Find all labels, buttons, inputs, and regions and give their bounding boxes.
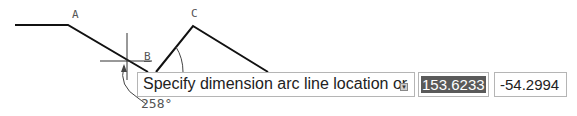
- drawing-canvas[interactable]: [0, 0, 577, 116]
- point-label-c: C: [191, 7, 198, 20]
- arrowhead: [121, 64, 127, 72]
- down-arrow-options-icon[interactable]: ▾: [400, 83, 408, 91]
- point-label-a: A: [72, 8, 79, 21]
- value-1-text: 153.6233: [421, 76, 486, 93]
- value-input-1[interactable]: 153.6233: [418, 72, 489, 97]
- prompt-text: Specify dimension arc line location or: [143, 75, 407, 93]
- angle-label: 258°: [141, 96, 172, 111]
- angle-arc-c: [176, 47, 183, 72]
- point-label-b: B: [144, 50, 151, 63]
- value-2-text: -54.2994: [499, 76, 560, 93]
- dynamic-input-prompt: Specify dimension arc line location or ▾: [137, 72, 415, 97]
- value-input-2[interactable]: -54.2994: [494, 72, 567, 97]
- polyline-geometry: [15, 25, 268, 72]
